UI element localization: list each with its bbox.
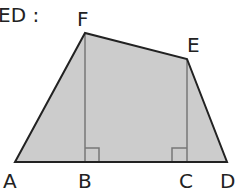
title-fragment: ED : xyxy=(0,3,39,27)
label-a: A xyxy=(3,169,17,190)
label-e: E xyxy=(187,33,200,57)
label-d: D xyxy=(220,169,235,190)
geometry-figure: ED : A B C D E F xyxy=(0,0,245,190)
label-b: B xyxy=(78,169,92,190)
label-c: C xyxy=(179,169,193,190)
label-f: F xyxy=(77,7,89,31)
